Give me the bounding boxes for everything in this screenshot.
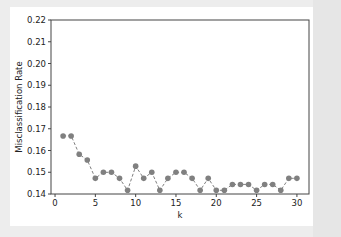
data-point: [157, 188, 163, 194]
data-point: [222, 188, 228, 194]
y-tick-label: 0.19: [27, 80, 46, 90]
data-point: [270, 182, 276, 188]
x-tick-label: 20: [211, 198, 222, 208]
x-axis-label: k: [178, 210, 183, 220]
y-tick-label: 0.22: [27, 15, 46, 25]
data-point: [125, 188, 131, 194]
data-point: [230, 182, 236, 188]
y-tick-label: 0.18: [27, 102, 46, 112]
y-tick-label: 0.16: [27, 146, 46, 156]
y-tick-label: 0.15: [27, 167, 46, 177]
y-tick-label: 0.21: [27, 37, 46, 47]
x-tick-label: 15: [171, 198, 182, 208]
y-tick-label: 0.14: [27, 189, 46, 199]
data-point: [181, 169, 187, 175]
data-point: [197, 188, 203, 194]
x-tick-label: 5: [93, 198, 98, 208]
data-point: [101, 169, 107, 175]
y-axis-label: Misclassification Rate: [14, 61, 24, 152]
data-point: [262, 182, 268, 188]
data-point: [173, 169, 179, 175]
x-tick-label: 0: [52, 198, 57, 208]
data-point: [117, 176, 123, 182]
data-point: [294, 176, 300, 182]
data-point: [76, 151, 82, 157]
data-point: [60, 133, 66, 139]
x-tick-label: 10: [130, 198, 141, 208]
data-point: [205, 176, 211, 182]
data-point: [246, 182, 252, 188]
data-point: [149, 169, 155, 175]
data-point: [213, 188, 219, 194]
data-point: [109, 169, 115, 175]
data-point: [189, 176, 195, 182]
data-point: [68, 133, 74, 139]
x-tick-label: 25: [251, 198, 262, 208]
series-line: [63, 136, 297, 190]
data-point: [133, 163, 139, 169]
y-tick-label: 0.20: [27, 59, 46, 69]
data-point: [93, 176, 99, 182]
data-point: [278, 188, 284, 194]
data-point: [165, 176, 171, 182]
data-point: [141, 176, 147, 182]
data-point: [84, 157, 90, 163]
line-chart: 0.140.150.160.170.180.190.200.210.220510…: [0, 0, 341, 237]
data-point: [286, 176, 292, 182]
x-tick-label: 30: [291, 198, 302, 208]
data-point: [238, 182, 244, 188]
y-tick-label: 0.17: [27, 124, 46, 134]
data-point: [254, 188, 260, 194]
axes-frame: [51, 20, 309, 194]
